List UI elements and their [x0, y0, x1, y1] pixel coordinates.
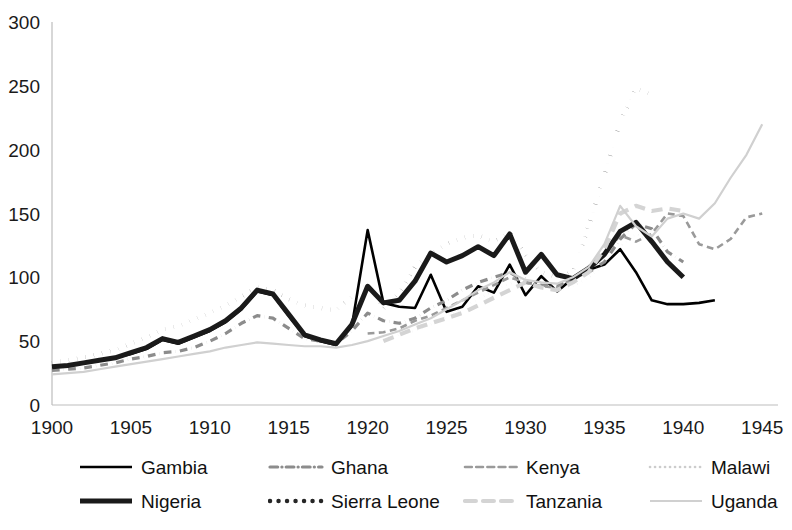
series-line-kenya	[368, 214, 763, 334]
legend-swatch-gambia	[78, 460, 134, 474]
x-axis-tick-label: 1930	[504, 417, 546, 438]
x-axis-tick-label: 1910	[189, 417, 231, 438]
legend-item-nigeria[interactable]: Nigeria	[78, 492, 268, 511]
chart-page: 0501001502002503001900190519101915192019…	[0, 0, 792, 530]
y-axis-tick-label: 250	[8, 76, 40, 97]
legend-label: Tanzania	[526, 492, 602, 511]
legend-item-uganda[interactable]: Uganda	[648, 492, 792, 511]
y-axis-tick-label: 100	[8, 267, 40, 288]
legend-item-gambia[interactable]: Gambia	[78, 458, 268, 477]
y-axis-tick-label: 50	[19, 331, 40, 352]
x-axis-tick-label: 1940	[662, 417, 704, 438]
x-axis-tick-label: 1935	[583, 417, 625, 438]
legend-swatch-kenya	[463, 460, 519, 474]
legend-swatch-tanzania	[463, 494, 519, 508]
x-axis-tick-label: 1925	[425, 417, 467, 438]
y-axis-tick-label: 200	[8, 140, 40, 161]
legend-swatch-ghana	[268, 460, 324, 474]
legend-label: Ghana	[331, 458, 388, 477]
x-axis-tick-label: 1900	[31, 417, 73, 438]
legend-swatch-malawi	[648, 460, 704, 474]
legend-item-sierra-leone[interactable]: Sierra Leone	[268, 492, 463, 511]
legend-swatch-nigeria	[78, 494, 134, 508]
legend-label: Nigeria	[141, 492, 201, 511]
y-axis-tick-label: 300	[8, 12, 40, 33]
legend-item-ghana[interactable]: Ghana	[268, 458, 463, 477]
legend-label: Kenya	[526, 458, 580, 477]
legend-label: Uganda	[711, 492, 778, 511]
plot-area: 0501001502002503001900190519101915192019…	[0, 0, 792, 452]
x-axis-tick-label: 1915	[268, 417, 310, 438]
x-axis-tick-label: 1920	[347, 417, 389, 438]
legend-item-malawi[interactable]: Malawi	[648, 458, 792, 477]
legend-item-tanzania[interactable]: Tanzania	[463, 492, 648, 511]
line-chart: 0501001502002503001900190519101915192019…	[0, 0, 792, 452]
y-axis-tick-label: 0	[29, 395, 40, 416]
legend-swatch-uganda	[648, 494, 704, 508]
legend-label: Gambia	[141, 458, 208, 477]
chart-legend: GambiaGhanaKenyaMalawiNigeriaSierra Leon…	[0, 450, 792, 528]
x-axis-tick-label: 1905	[110, 417, 152, 438]
y-axis-tick-label: 150	[8, 204, 40, 225]
legend-swatch-sierra-leone	[268, 494, 324, 508]
legend-label: Sierra Leone	[331, 492, 440, 511]
legend-label: Malawi	[711, 458, 770, 477]
series-line-nigeria	[52, 222, 683, 366]
legend-item-kenya[interactable]: Kenya	[463, 458, 648, 477]
x-axis-tick-label: 1945	[741, 417, 783, 438]
